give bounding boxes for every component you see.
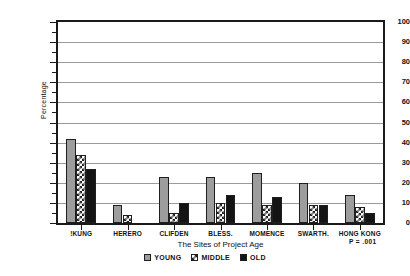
bar-young <box>345 195 355 223</box>
y-axis-minor-tick <box>52 32 56 33</box>
y-axis-minor-tick <box>52 213 56 214</box>
bar-chart-figure: Percentage The Sites of Project Age P = … <box>0 0 410 276</box>
y-axis-label: 80 <box>364 58 410 66</box>
p-value-annotation: P = .001 <box>349 238 376 245</box>
y-axis-label: 50 <box>364 119 410 127</box>
bar-old <box>179 203 189 223</box>
y-axis-minor-tick <box>52 173 56 174</box>
plot-area <box>56 20 385 225</box>
bar-middle <box>216 203 226 223</box>
y-axis-minor-tick <box>52 133 56 134</box>
bar-group <box>159 22 189 223</box>
bar-group <box>252 22 282 223</box>
y-axis-tick <box>50 183 56 184</box>
y-axis-tick <box>50 143 56 144</box>
bar-young <box>159 177 169 223</box>
x-axis-label: !KUNG <box>70 230 92 237</box>
y-axis-label: 100 <box>364 18 410 26</box>
y-axis-label: 60 <box>364 98 410 106</box>
y-axis-minor-tick <box>52 112 56 113</box>
y-axis-minor-tick <box>52 153 56 154</box>
bar-group <box>299 22 329 223</box>
bar-middle <box>76 155 86 223</box>
bar-group <box>113 22 143 223</box>
bar-young <box>299 183 309 223</box>
bar-old <box>86 169 96 223</box>
y-axis-label: 40 <box>364 139 410 147</box>
bar-middle <box>262 205 272 223</box>
legend: YOUNGMIDDLEOLD <box>0 254 410 261</box>
bar-middle <box>123 215 133 223</box>
y-axis-tick <box>50 42 56 43</box>
x-axis-label: HONG KONG <box>339 230 381 237</box>
bar-middle <box>309 205 319 223</box>
x-axis-label: MOMENCE <box>249 230 284 237</box>
legend-item-old: OLD <box>240 254 266 261</box>
x-axis-label: HERERO <box>113 230 142 237</box>
bar-old <box>272 197 282 223</box>
legend-label: OLD <box>250 254 266 261</box>
bars-layer <box>58 22 383 223</box>
y-axis-tick <box>50 62 56 63</box>
y-axis-label: 90 <box>364 38 410 46</box>
bar-young <box>66 139 76 223</box>
y-axis-label: 20 <box>364 179 410 187</box>
y-axis-tick <box>50 102 56 103</box>
y-axis-minor-tick <box>52 52 56 53</box>
y-axis-label: 70 <box>364 78 410 86</box>
x-axis-label: SWARTH. <box>298 230 329 237</box>
bar-young <box>252 173 262 223</box>
y-axis-label: 30 <box>364 159 410 167</box>
y-axis-tick <box>50 123 56 124</box>
legend-swatch-icon <box>240 254 247 261</box>
bar-old <box>226 195 236 223</box>
y-axis-label: 10 <box>364 199 410 207</box>
y-axis-minor-tick <box>52 193 56 194</box>
legend-swatch-icon <box>191 254 198 261</box>
y-axis-minor-tick <box>52 92 56 93</box>
legend-item-young: YOUNG <box>144 254 181 261</box>
y-axis-tick <box>50 203 56 204</box>
y-axis-tick <box>50 22 56 23</box>
bar-middle <box>169 213 179 223</box>
y-axis-minor-tick <box>52 72 56 73</box>
y-axis-label: 0 <box>364 219 410 227</box>
legend-label: YOUNG <box>154 254 181 261</box>
bar-group <box>66 22 96 223</box>
y-axis-tick <box>50 82 56 83</box>
bar-group <box>206 22 236 223</box>
x-axis-label: CLIFDEN <box>159 230 188 237</box>
legend-item-middle: MIDDLE <box>191 254 230 261</box>
legend-swatch-icon <box>144 254 151 261</box>
x-axis-label: BLESS. <box>208 230 232 237</box>
y-axis-tick <box>50 163 56 164</box>
legend-label: MIDDLE <box>201 254 230 261</box>
y-axis-tick <box>50 223 56 224</box>
bar-young <box>206 177 216 223</box>
bar-old <box>319 205 329 223</box>
y-axis-title: Percentage <box>40 60 47 140</box>
x-axis-title: The Sites of Project Age <box>56 240 385 249</box>
bar-young <box>113 205 123 223</box>
